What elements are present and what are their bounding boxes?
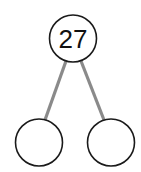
whole-node-label: 27 [59,24,88,54]
connector-left [45,61,66,120]
part-right-node[interactable] [88,119,135,166]
number-bond-diagram: 27 [0,0,141,172]
connector-right [81,61,104,120]
part-left-node[interactable] [16,119,63,166]
